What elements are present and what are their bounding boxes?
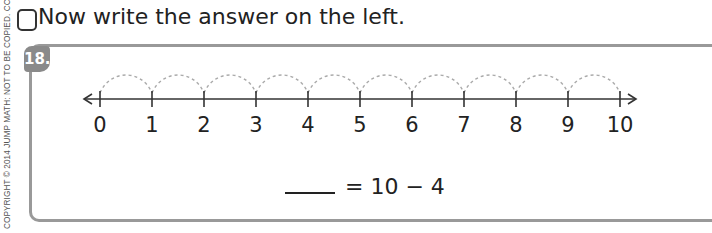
tick-label-10: 10 — [607, 113, 634, 137]
hop-arc — [204, 75, 256, 93]
hop-arcs — [100, 75, 620, 93]
hop-arc — [256, 75, 308, 93]
answer-blank[interactable] — [285, 172, 335, 194]
hop-arc — [464, 75, 516, 93]
hop-arc — [100, 75, 152, 93]
tick-label-2: 2 — [197, 113, 210, 137]
tick-label-0: 0 — [93, 113, 106, 137]
hop-arc — [516, 75, 568, 93]
tick-label-7: 7 — [457, 113, 470, 137]
hop-arc — [152, 75, 204, 93]
hop-arc — [568, 75, 620, 93]
tick-label-3: 3 — [249, 113, 262, 137]
equation-text: = 10 − 4 — [345, 174, 445, 199]
tick-label-9: 9 — [561, 113, 574, 137]
tick-label-4: 4 — [301, 113, 314, 137]
tick-label-5: 5 — [353, 113, 366, 137]
tick-labels: 012345678910 — [93, 113, 633, 137]
hop-arc — [360, 75, 412, 93]
hop-arc — [412, 75, 464, 93]
hop-arc — [308, 75, 360, 93]
equation: = 10 − 4 — [285, 172, 445, 199]
tick-label-6: 6 — [405, 113, 418, 137]
tick-label-1: 1 — [145, 113, 158, 137]
tick-label-8: 8 — [509, 113, 522, 137]
